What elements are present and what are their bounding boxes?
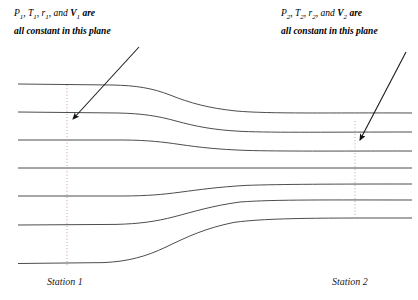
are-word-1: are bbox=[80, 8, 95, 18]
streamline-6 bbox=[18, 200, 412, 225]
streamline-5 bbox=[18, 184, 412, 196]
right-annotation-arrow bbox=[360, 52, 406, 140]
flow-diagram-svg bbox=[0, 0, 418, 300]
station-1-caption: Station 1 bbox=[47, 276, 83, 287]
streamline-1 bbox=[18, 84, 412, 113]
left-annotation-arrow bbox=[73, 47, 139, 119]
annotation-arrows-group bbox=[73, 47, 406, 140]
separator-3: , and bbox=[49, 8, 70, 18]
streamtube-figure: P1, T1, r1, and V1 are all constant in t… bbox=[0, 0, 418, 300]
separator-6: , and bbox=[316, 8, 337, 18]
station-2-annotation-line2: all constant in this plane bbox=[281, 24, 378, 38]
station-2-annotation-line1: P2, T2, r2, and V2 are bbox=[281, 6, 378, 24]
station-2-caption: Station 2 bbox=[332, 276, 368, 287]
station-1-annotation-line1: P1, T1, r1, and V1 are bbox=[14, 6, 111, 24]
station-1-annotation-label: P1, T1, r1, and V1 are all constant in t… bbox=[14, 6, 111, 38]
station-lines-group bbox=[67, 85, 355, 266]
streamlines-group bbox=[18, 84, 412, 264]
station-1-annotation-line2: all constant in this plane bbox=[14, 24, 111, 38]
are-word-2: are bbox=[347, 8, 362, 18]
station-2-annotation-label: P2, T2, r2, and V2 are all constant in t… bbox=[281, 6, 378, 38]
streamline-3 bbox=[18, 140, 412, 151]
